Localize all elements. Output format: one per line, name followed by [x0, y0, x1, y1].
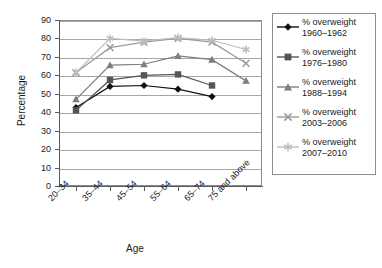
- legend-label: % overweight 1988–1994: [302, 77, 376, 99]
- x-axis-tick: [76, 187, 77, 191]
- legend-label-line2: 1976–1980: [302, 58, 376, 69]
- legend-label-line2: 1988–1994: [302, 88, 376, 99]
- legend-label-line2: 2007–2010: [302, 148, 376, 159]
- x-axis-tick: [246, 187, 247, 191]
- y-axis-title: Percentage: [16, 51, 27, 151]
- legend-label-line1: % overweight: [302, 137, 356, 147]
- series-layer: [59, 20, 262, 186]
- legend-label-line2: 2003–2006: [302, 118, 376, 129]
- legend-label-line2: 1960–1962: [302, 28, 376, 39]
- legend-marker-x-icon: [276, 111, 300, 123]
- y-axis-tick-label: 80: [11, 34, 51, 43]
- x-axis-tick: [110, 187, 111, 191]
- legend-label-line1: % overweight: [302, 17, 356, 27]
- legend-label-line1: % overweight: [302, 77, 356, 87]
- legend-entry: % overweight 1960–1962: [276, 19, 375, 49]
- y-axis-tick-label: 90: [11, 16, 51, 25]
- legend-label: % overweight 1976–1980: [302, 47, 376, 69]
- x-axis-title: Age: [0, 243, 270, 254]
- legend-label: % overweight 2003–2006: [302, 107, 376, 129]
- x-axis-tick: [178, 187, 179, 191]
- overweight-by-age-line-chart: 90 80 70 60 50 40 30 20 10 0 20–34 35–44…: [0, 0, 382, 268]
- legend-marker-diamond-icon: [276, 21, 300, 33]
- legend-entry: % overweight 1976–1980: [276, 49, 375, 79]
- legend-entry: % overweight 2007–2010: [276, 139, 375, 169]
- legend-marker-square-icon: [276, 51, 300, 63]
- y-axis-tick-label: 0: [11, 182, 51, 191]
- x-axis-tick: [144, 187, 145, 191]
- legend-marker-asterisk-icon: [276, 141, 300, 153]
- y-axis-tick-label: 10: [11, 164, 51, 173]
- legend-label: % overweight 1960–1962: [302, 17, 376, 39]
- legend: % overweight 1960–1962 % overweight 1976…: [272, 13, 376, 175]
- legend-entry: % overweight 2003–2006: [276, 109, 375, 139]
- legend-entry: % overweight 1988–1994: [276, 79, 375, 109]
- legend-label-line1: % overweight: [302, 107, 356, 117]
- legend-label-line1: % overweight: [302, 47, 356, 57]
- legend-label: % overweight 2007–2010: [302, 137, 376, 159]
- legend-marker-triangle-icon: [276, 81, 300, 93]
